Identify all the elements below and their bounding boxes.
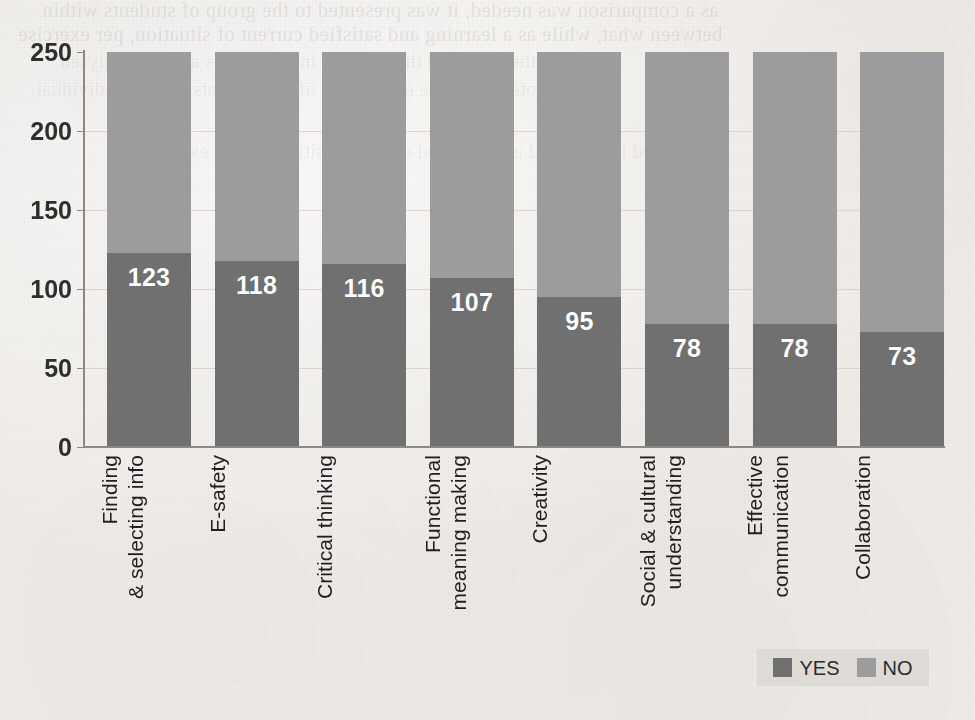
bar-segment-no — [107, 52, 191, 253]
legend-label-no: NO — [883, 658, 913, 678]
bar-value-label: 116 — [322, 276, 406, 301]
bar-segment-yes: 116 — [322, 264, 406, 447]
legend-item-no[interactable]: NO — [857, 658, 913, 678]
bar-segment-no — [645, 52, 729, 324]
bar-collaboration[interactable]: 73 — [860, 52, 944, 447]
x-label-line-1: Functional — [421, 455, 444, 553]
x-label-line-1: Critical thinking — [313, 455, 336, 599]
y-axis-line — [83, 50, 85, 448]
bar-functional-meaning-making[interactable]: 107 — [430, 52, 514, 447]
chart-legend: YES NO — [757, 649, 929, 686]
bar-value-label: 95 — [537, 309, 621, 334]
y-tick-label: 200 — [6, 119, 72, 144]
bar-value-label: 107 — [430, 290, 514, 315]
x-axis-label-social-cultural-understanding: Social & cultural understanding — [635, 455, 686, 655]
bar-value-label: 118 — [215, 273, 299, 298]
y-tick-label: 250 — [6, 40, 72, 65]
bar-social-cultural-understanding[interactable]: 78 — [645, 52, 729, 447]
bar-value-label: 73 — [860, 344, 944, 369]
bar-segment-no — [537, 52, 621, 297]
bar-segment-yes: 123 — [107, 253, 191, 447]
stacked-bar-chart: 123 118 116 107 95 — [0, 0, 975, 720]
x-label-line-2: & selecting info — [123, 455, 149, 655]
bar-segment-yes: 78 — [753, 324, 837, 447]
legend-label-yes: YES — [799, 658, 839, 678]
bar-segment-no — [322, 52, 406, 264]
bar-segment-no — [215, 52, 299, 261]
x-label-line-1: Finding — [98, 455, 121, 525]
x-axis-label-collaboration: Collaboration — [850, 455, 876, 655]
bar-value-label: 78 — [645, 336, 729, 361]
x-label-line-1: Creativity — [528, 455, 551, 544]
bar-creativity[interactable]: 95 — [537, 52, 621, 447]
x-label-line-1: E-safety — [206, 455, 229, 533]
x-axis-label-functional-meaning-making: Functional meaning making — [420, 455, 471, 655]
x-label-line-2: meaning making — [446, 455, 472, 655]
x-axis-label-critical-thinking: Critical thinking — [312, 455, 338, 655]
y-tick-label: 100 — [6, 277, 72, 302]
bar-segment-yes: 95 — [537, 297, 621, 447]
bar-segment-no — [860, 52, 944, 332]
y-tick-mark-150 — [77, 210, 84, 211]
bar-segment-no — [430, 52, 514, 278]
legend-swatch-yes-icon — [773, 658, 792, 677]
x-label-line-1: Social & cultural — [636, 455, 659, 607]
bar-segment-yes: 118 — [215, 261, 299, 447]
y-axis-tick-labels: 250 200 150 100 50 0 — [0, 0, 72, 720]
x-label-line-1: Collaboration — [851, 455, 874, 580]
bar-segment-yes: 78 — [645, 324, 729, 447]
bar-critical-thinking[interactable]: 116 — [322, 52, 406, 447]
y-tick-mark-250 — [77, 52, 84, 53]
bar-segment-no — [753, 52, 837, 324]
bar-effective-communication[interactable]: 78 — [753, 52, 837, 447]
bar-value-label: 123 — [107, 265, 191, 290]
bar-segment-yes: 107 — [430, 278, 514, 447]
x-axis-label-effective-communication: Effective communication — [742, 455, 793, 655]
x-label-line-2: communication — [768, 455, 794, 655]
y-tick-mark-100 — [77, 289, 84, 290]
y-tick-label: 50 — [6, 356, 72, 381]
y-tick-label: 150 — [6, 198, 72, 223]
x-label-line-2: understanding — [661, 455, 687, 655]
y-tick-label: 0 — [6, 435, 72, 460]
bar-segment-yes: 73 — [860, 332, 944, 447]
x-axis-label-e-safety: E-safety — [205, 455, 231, 655]
plot-area: 123 118 116 107 95 — [84, 52, 945, 447]
y-tick-mark-50 — [77, 368, 84, 369]
x-label-line-1: Effective — [743, 455, 766, 536]
bar-value-label: 78 — [753, 336, 837, 361]
legend-swatch-no-icon — [857, 658, 876, 677]
bar-finding-selecting-info[interactable]: 123 — [107, 52, 191, 447]
y-tick-mark-200 — [77, 131, 84, 132]
y-tick-mark-0 — [77, 447, 84, 448]
x-axis-line — [83, 446, 945, 448]
x-axis-label-finding-selecting-info: Finding & selecting info — [97, 455, 148, 655]
legend-item-yes[interactable]: YES — [773, 658, 839, 678]
bar-e-safety[interactable]: 118 — [215, 52, 299, 447]
x-axis-label-creativity: Creativity — [527, 455, 553, 655]
